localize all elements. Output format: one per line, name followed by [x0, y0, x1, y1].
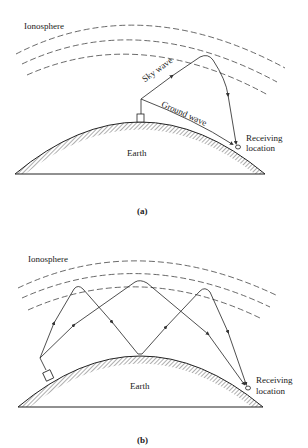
transmitter-icon — [137, 114, 144, 122]
caption-a: (a) — [137, 206, 148, 216]
ionosphere-layers — [16, 25, 285, 95]
two-hop-path — [40, 323, 54, 358]
receiving-label-a-line2: location — [246, 143, 275, 153]
single-hop-path — [40, 325, 74, 358]
receiving-label-b-line1: Receiving — [256, 375, 293, 385]
receiver-icon — [236, 145, 241, 149]
receiver-icon — [246, 386, 251, 390]
antenna-mast — [40, 358, 46, 370]
panel-a — [15, 25, 285, 174]
earth-label-b: Earth — [130, 381, 150, 391]
receiving-label-a-line1: Receiving — [246, 133, 283, 143]
transmitter-icon — [43, 370, 54, 382]
earth-label-a: Earth — [127, 148, 147, 158]
ionosphere-label-a: Ionosphere — [24, 21, 64, 31]
ionosphere-label-b: Ionosphere — [28, 254, 68, 264]
receiving-label-b-line2: location — [256, 386, 285, 396]
ionosphere-layers — [18, 261, 278, 318]
caption-b: (b) — [137, 435, 148, 445]
ground-wave-path — [141, 99, 232, 144]
